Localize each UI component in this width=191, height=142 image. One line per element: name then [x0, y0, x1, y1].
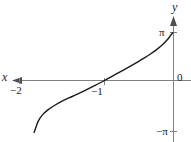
x-tick-label-minus-2: −2	[10, 85, 22, 96]
x-axis-arrow-icon	[12, 77, 22, 84]
y-axis-arrow-icon	[170, 16, 177, 26]
plot-canvas	[0, 0, 191, 142]
x-axis	[12, 77, 191, 85]
y-axis-label: y	[172, 1, 177, 13]
graph-figure: x y −2 −1 0 π −π	[0, 0, 191, 142]
y-tick-label-minus-pi: −π	[156, 126, 168, 137]
function-curve-plot	[34, 33, 173, 133]
x-tick-label-minus-1: −1	[91, 86, 103, 97]
x-axis-label: x	[2, 71, 7, 83]
y-tick-label-pi: π	[159, 27, 165, 38]
origin-label: 0	[177, 72, 183, 83]
